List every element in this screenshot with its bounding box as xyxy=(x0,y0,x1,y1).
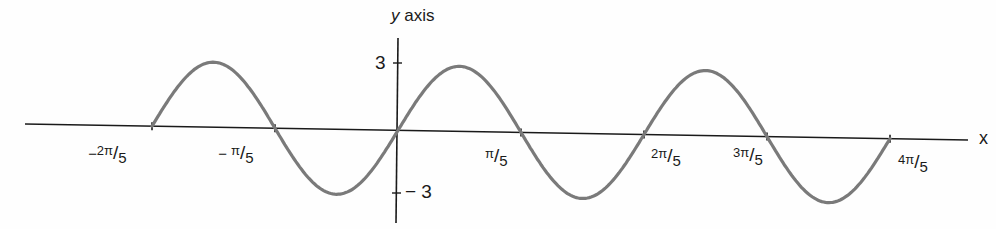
y-axis-title-rest: axis xyxy=(400,6,435,25)
sine-wave-chart: y axis x 3 − 3 −2π/5 − π/5 π/5 2π/5 3π/5… xyxy=(0,0,996,229)
x-tick-label-neg-pi-5: − π/5 xyxy=(218,142,254,166)
x-tick-label-neg-2pi-5: −2π/5 xyxy=(88,142,127,166)
y-axis-title: y axis xyxy=(391,6,434,26)
y-tick-label-3: 3 xyxy=(375,52,386,74)
x-tick-label-3pi-5: 3π/5 xyxy=(733,144,763,168)
y-axis-title-var: y xyxy=(391,6,400,25)
x-tick-label-4pi-5: 4π/5 xyxy=(898,151,928,175)
x-tick-label-2pi-5: 2π/5 xyxy=(651,145,681,169)
x-axis-title: x xyxy=(979,128,988,149)
sine-curve xyxy=(152,62,890,202)
x-tick-label-pi-5: π/5 xyxy=(485,145,508,169)
x-axis-line xyxy=(25,124,968,140)
plot-area xyxy=(0,0,996,229)
y-tick-label-neg3: − 3 xyxy=(405,181,432,203)
